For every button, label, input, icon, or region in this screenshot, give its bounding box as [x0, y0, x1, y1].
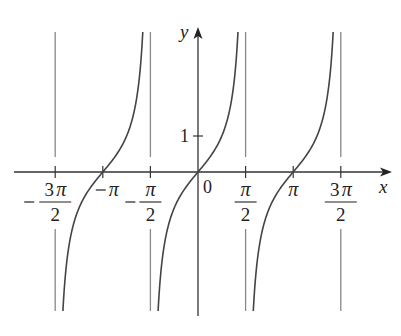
- x-tick-label-pi: π: [145, 178, 156, 200]
- x-tick-label-den: 2: [241, 204, 251, 225]
- x-axis-label: x: [378, 176, 388, 197]
- x-tick-label-pi: π: [56, 178, 67, 200]
- origin-label: 0: [203, 177, 212, 197]
- x-tick-label-num: 3: [44, 179, 54, 200]
- x-tick-label-pi: π: [288, 178, 299, 200]
- x-tick-label-pi: π: [342, 178, 353, 200]
- x-tick-label-pi: π: [241, 178, 252, 200]
- x-tick-label-num: 3: [330, 179, 340, 200]
- x-tick-label-den: 2: [146, 204, 156, 225]
- axes: [14, 27, 392, 316]
- x-tick-labels: 3π2ππ2π2π3π2: [24, 178, 357, 225]
- y-tick-label-1: 1: [180, 126, 189, 146]
- x-tick-label-den: 2: [50, 204, 60, 225]
- tangent-chart: 3π2ππ2π2π3π2 x y 1 0: [0, 0, 401, 336]
- y-axis-label: y: [178, 21, 189, 42]
- x-tick-label-den: 2: [336, 204, 346, 225]
- x-tick-label-pi: π: [109, 178, 120, 200]
